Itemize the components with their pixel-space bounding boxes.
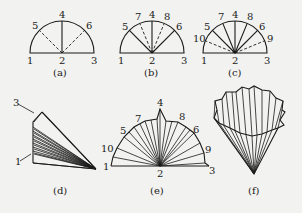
- panel-c-label-9: 9: [267, 34, 273, 44]
- panel-a-drawing: [30, 21, 94, 53]
- panel-b-label-6: 6: [176, 22, 182, 32]
- panel-b-label-5: 5: [122, 22, 128, 32]
- panel-e-label-2: 2: [157, 169, 163, 179]
- panel-e-label-1: 1: [103, 162, 109, 172]
- panel-c-label-5: 5: [204, 22, 210, 32]
- panel-e-label-9: 9: [205, 145, 211, 155]
- panel-e-label-3: 3: [209, 166, 215, 176]
- panel-b-label-7: 7: [135, 12, 141, 22]
- panel-a-label-6: 6: [86, 21, 92, 31]
- panel-a-label-5: 5: [32, 21, 38, 31]
- panel-d-label-3: 3: [13, 98, 19, 108]
- panel-c-label-8: 8: [247, 12, 253, 22]
- panel-e-label-4: 4: [157, 98, 163, 108]
- panel-f-caption: (f): [248, 186, 260, 196]
- panel-c-label-1: 1: [201, 56, 207, 66]
- panel-d-caption: (d): [53, 186, 67, 196]
- panel-e-drawing: [111, 109, 209, 166]
- panel-a-label-4: 4: [59, 10, 65, 20]
- panel-e-label-8: 8: [179, 112, 185, 122]
- panel-e-caption: (e): [150, 186, 164, 196]
- panel-a-label-1: 1: [27, 56, 33, 66]
- panel-f-drawing: [214, 86, 285, 174]
- panel-b-label-2: 2: [149, 56, 155, 66]
- panel-a-label-2: 2: [59, 56, 65, 66]
- panel-c-drawing: [203, 21, 267, 53]
- panel-b-label-1: 1: [118, 56, 124, 66]
- panel-d-drawing: [18, 104, 96, 169]
- panel-b-label-3: 3: [181, 56, 187, 66]
- folding-diagram-figure: 1 2 3 4 5 6 (a) 1 2 3 4 5 6 7 8 (b) 1 2 …: [0, 0, 302, 213]
- panel-b-drawing: [120, 21, 184, 53]
- panel-e-label-10: 10: [101, 144, 114, 154]
- panel-c-label-4: 4: [232, 10, 238, 20]
- panel-d-label-1: 1: [15, 157, 21, 167]
- panel-c-label-3: 3: [264, 56, 270, 66]
- panel-a-label-3: 3: [91, 56, 97, 66]
- panel-e-label-7: 7: [135, 114, 141, 124]
- panel-c-label-2: 2: [232, 56, 238, 66]
- panel-e-label-5: 5: [120, 126, 126, 136]
- panel-a-caption: (a): [53, 68, 67, 78]
- diagram-drawing: [0, 0, 302, 213]
- panel-c-label-7: 7: [218, 12, 224, 22]
- panel-b-caption: (b): [144, 68, 158, 78]
- panel-c-label-10: 10: [193, 34, 206, 44]
- panel-b-label-8: 8: [164, 12, 170, 22]
- panel-e-label-6: 6: [193, 125, 199, 135]
- panel-b-label-4: 4: [149, 10, 155, 20]
- panel-c-label-6: 6: [259, 22, 265, 32]
- panel-c-caption: (c): [228, 68, 241, 78]
